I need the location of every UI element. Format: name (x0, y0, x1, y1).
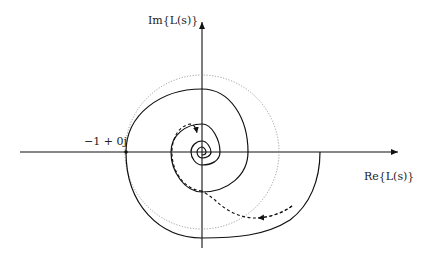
x-axis-label: Re{L(s)} (364, 170, 414, 183)
critical-point-marker (124, 150, 128, 154)
critical-point-label: −1 + 0j (84, 135, 127, 148)
dashed-arrow-outer (258, 206, 292, 218)
y-axis-label: Im{L(s)} (148, 14, 198, 27)
dashed-path-inner (172, 124, 202, 191)
nyquist-diagram (0, 0, 427, 257)
nyquist-spiral (126, 89, 320, 238)
dashed-path-outer (202, 191, 292, 218)
